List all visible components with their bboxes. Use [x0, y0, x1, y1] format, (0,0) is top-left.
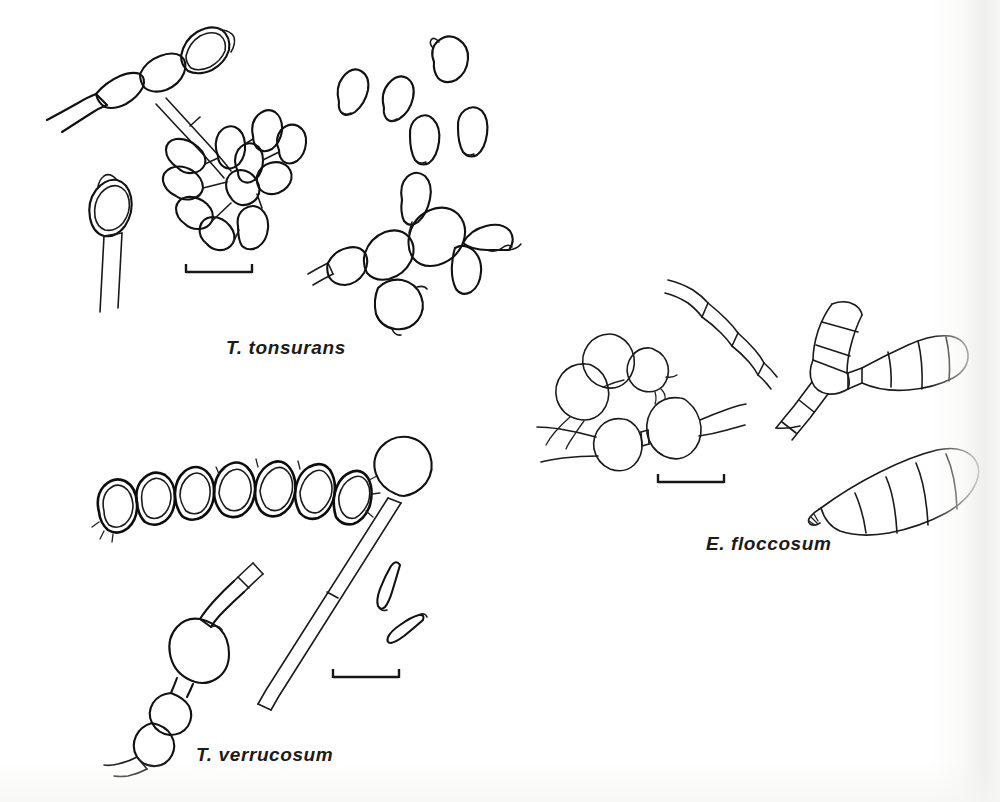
- scale-bar-verrucosum: [333, 669, 399, 678]
- stalked-chlamydospore: [89, 175, 132, 312]
- septate-hypha: [665, 280, 777, 389]
- free-conidium-lower: [375, 280, 427, 335]
- free-elongate-microconidia: [377, 562, 427, 643]
- illustration-plate: T. tonsurans T. verrucosum E. floccosum: [0, 0, 1000, 802]
- scale-bar-tonsurans: [186, 264, 252, 273]
- macroconidium-branched: [776, 302, 968, 440]
- panel-t-verrucosum: [92, 437, 432, 777]
- globose-chlamydospore-cluster: [546, 334, 677, 449]
- free-microconidia: [338, 36, 488, 164]
- panel-t-tonsurans: [47, 27, 521, 335]
- panel-e-floccosum: [537, 280, 979, 535]
- species-label-e-floccosum: E. floccosum: [706, 533, 831, 555]
- plate-drawing: [0, 0, 1000, 802]
- macroconidium-clavate: [809, 448, 979, 535]
- species-label-t-tonsurans: T. tonsurans: [226, 337, 346, 359]
- species-label-t-verrucosum: T. verrucosum: [196, 744, 333, 766]
- scale-bar-floccosum: [658, 474, 724, 483]
- swollen-hyphal-chain: [308, 173, 521, 294]
- conidiophore-with-terminal-chlamydospore: [258, 437, 432, 710]
- chlamydospore-chain: [92, 459, 380, 542]
- microconidia-cluster-on-hyphae: [156, 98, 306, 250]
- chlamydospore-pair-chain: [537, 398, 746, 471]
- hyphal-chain-with-terminal-chlamydospore: [47, 27, 235, 132]
